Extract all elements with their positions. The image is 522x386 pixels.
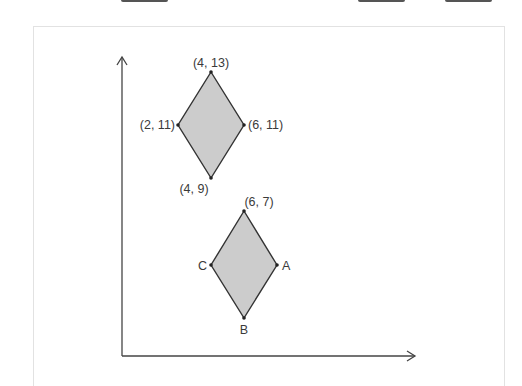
vertex-dot <box>209 70 213 74</box>
vertex-dot <box>242 316 246 320</box>
vertex-label-bottom: (4, 9) <box>179 182 208 196</box>
vertex-dot <box>209 176 213 180</box>
vertex-dot <box>275 263 279 267</box>
vertex-label-a: A <box>282 259 291 273</box>
vertex-label-top: (6, 7) <box>244 195 273 209</box>
axes <box>117 57 415 361</box>
page-stage: (4, 13) (2, 11) (6, 11) (4, 9) (6, 7) C … <box>0 0 522 386</box>
vertex-label-left: (2, 11) <box>140 118 175 132</box>
vertex-dot <box>209 263 213 267</box>
vertex-dot <box>176 123 180 127</box>
vertex-dot <box>242 209 246 213</box>
image-rhombus: (6, 7) C A B <box>198 195 291 337</box>
vertex-label-top: (4, 13) <box>193 56 229 70</box>
vertex-label-b: B <box>240 323 248 337</box>
original-rhombus: (4, 13) (2, 11) (6, 11) (4, 9) <box>140 56 283 196</box>
vertex-label-right: (6, 11) <box>248 118 283 132</box>
vertex-label-c: C <box>198 259 207 273</box>
coordinate-diagram: (4, 13) (2, 11) (6, 11) (4, 9) (6, 7) C … <box>0 0 522 386</box>
vertex-dot <box>242 123 246 127</box>
